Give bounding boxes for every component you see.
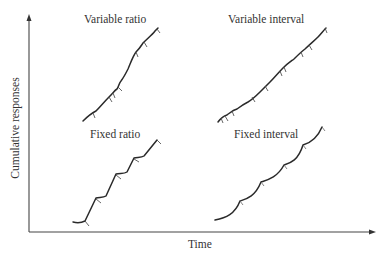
fixed-interval-curve xyxy=(215,127,322,220)
y-axis-arrow-icon xyxy=(27,14,32,21)
panel-title-fixed-ratio: Fixed ratio xyxy=(90,128,140,140)
reinforcement-schedules-diagram xyxy=(0,0,381,256)
panel-title-variable-ratio: Variable ratio xyxy=(84,13,146,25)
panel-title-variable-interval: Variable interval xyxy=(228,13,304,25)
x-axis-arrow-icon xyxy=(369,230,376,235)
fixed-ratio-ticks xyxy=(85,140,161,226)
axes xyxy=(29,20,370,232)
variable-ratio-curve xyxy=(83,28,158,121)
variable-interval-curve xyxy=(218,28,326,122)
y-axis-label: Cumulative responses xyxy=(9,71,21,186)
panel-title-fixed-interval: Fixed interval xyxy=(234,128,298,140)
fixed-ratio-curve xyxy=(73,140,157,223)
x-axis-label: Time xyxy=(188,238,212,250)
